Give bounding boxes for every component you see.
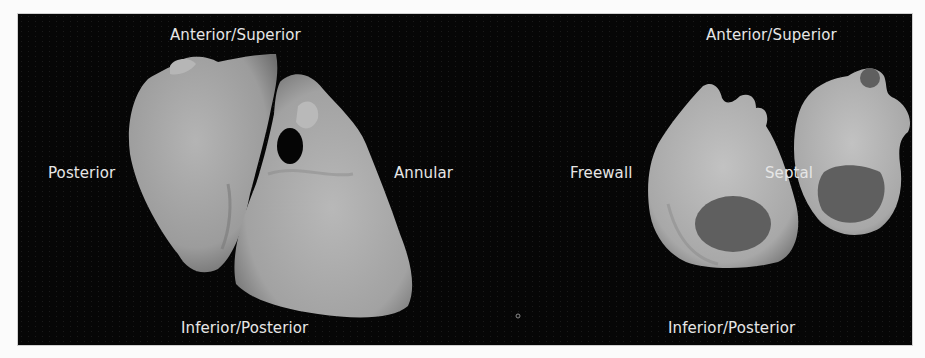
right-label-center: Septal xyxy=(765,164,813,182)
septal-top-orifice xyxy=(860,68,880,88)
right-label-left: Freewall xyxy=(570,164,632,182)
left-label-bottom: Inferior/Posterior xyxy=(181,319,308,337)
left-label-right: Annular xyxy=(394,164,453,182)
small-marker xyxy=(516,314,520,318)
septal-structure xyxy=(794,68,910,235)
central-opening xyxy=(277,128,303,164)
left-label-left: Posterior xyxy=(48,164,115,182)
freewall-orifice xyxy=(695,196,771,252)
figure-panel: Anterior/Superior Posterior Annular Infe… xyxy=(18,14,912,345)
right-label-top: Anterior/Superior xyxy=(706,26,837,44)
right-label-bottom: Inferior/Posterior xyxy=(668,319,795,337)
left-label-top: Anterior/Superior xyxy=(170,26,301,44)
